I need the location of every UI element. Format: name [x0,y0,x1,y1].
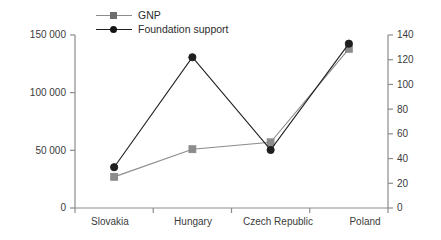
data-point-gnp-hungary[interactable] [189,146,196,153]
data-point-foundation-support-slovakia[interactable] [111,164,118,171]
y-left-tick-label-0: 0 [6,203,66,213]
y-right-tick-label-0: 0 [397,203,437,213]
chart-legend: GNP Foundation support [96,8,228,36]
legend-label-gnp: GNP [138,9,161,21]
data-point-foundation-support-czech-republic[interactable] [267,146,274,153]
data-point-gnp-slovakia[interactable] [111,173,118,180]
y-right-tick-label-100: 100 [397,80,437,90]
y-right-tick-label-20: 20 [397,179,437,189]
legend-marker-circle-icon [96,23,132,35]
legend-label-foundation-support: Foundation support [138,23,228,35]
y-left-tick-label-150000: 150 000 [6,30,66,40]
x-category-label-hungary: Hungary [153,216,233,227]
series-line-foundation-support [114,44,349,168]
y-left-tick-label-50000: 50 000 [6,146,66,156]
data-point-gnp-czech-republic[interactable] [267,139,274,146]
x-category-label-czech-republic: Czech Republic [233,216,323,227]
legend-marker-square-icon [96,9,132,21]
data-point-foundation-support-poland[interactable] [345,40,352,47]
y-right-tick-label-80: 80 [397,105,437,115]
chart-plot-area [0,0,441,240]
y-right-tick-label-40: 40 [397,154,437,164]
legend-item-gnp: GNP [96,8,228,22]
chart-container: 150 000 100 000 50 000 0 140 120 100 80 … [0,0,441,240]
series-line-gnp [114,49,349,177]
x-category-label-slovakia: Slovakia [70,216,150,227]
y-left-tick-label-100000: 100 000 [6,88,66,98]
x-category-label-poland: Poland [325,216,405,227]
data-point-foundation-support-hungary[interactable] [189,54,196,61]
y-right-tick-label-140: 140 [397,30,437,40]
y-right-tick-label-120: 120 [397,55,437,65]
y-right-tick-label-60: 60 [397,129,437,139]
legend-item-foundation-support: Foundation support [96,22,228,36]
